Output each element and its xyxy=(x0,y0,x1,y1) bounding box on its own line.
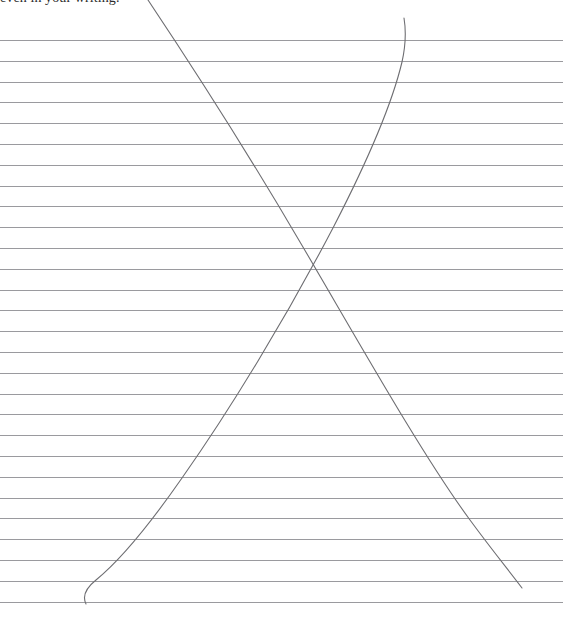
ink-strokes-layer xyxy=(0,0,563,621)
ascending-pen-stroke xyxy=(84,18,405,604)
descending-pen-stroke xyxy=(148,0,522,588)
ink-svg xyxy=(0,0,563,621)
notebook-page: even in your writing. xyxy=(0,0,563,621)
